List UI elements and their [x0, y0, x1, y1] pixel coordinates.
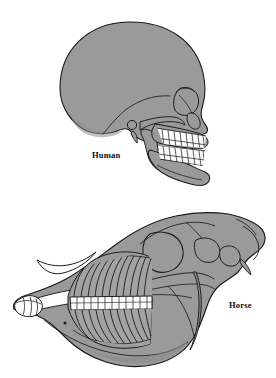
human-specimen-label: Human: [92, 151, 120, 160]
horse-skull-group: [13, 213, 265, 367]
horse-occlusal-band: [70, 296, 152, 310]
horse-specimen-label: Horse: [229, 301, 252, 310]
skull-illustration-svg: [0, 0, 276, 378]
skull-comparison-figure: Human Horse: [0, 0, 276, 378]
human-skull-group: [60, 22, 210, 185]
horse-occipital-condyle: [220, 246, 241, 266]
human-ear-canal: [127, 120, 136, 129]
horse-mental-foramen: [64, 322, 67, 325]
